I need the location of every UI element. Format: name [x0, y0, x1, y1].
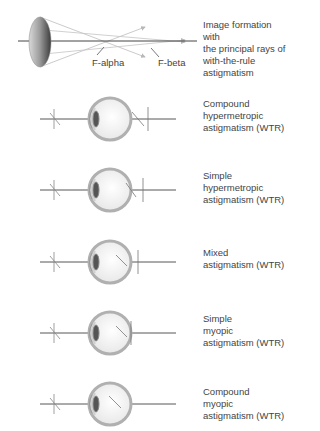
eye-row-simple-hypermetropic [40, 169, 176, 211]
caption-mixed: Mixed astigmatism (WTR) [203, 247, 284, 271]
f-alpha-label: F-alpha [92, 57, 124, 68]
caption-compound-hypermetropic: Compound hypermetropic astigmatism (WTR) [203, 98, 284, 134]
caption-simple-hypermetropic: Simple hypermetropic astigmatism (WTR) [203, 170, 284, 206]
eye-row-compound-hypermetropic [40, 98, 176, 140]
caption-compound-myopic: Compound myopic astigmatism (WTR) [203, 386, 284, 422]
top-caption: Image formation with the principal rays … [203, 19, 287, 79]
lens-icon [29, 17, 51, 67]
caption-simple-myopic: Simple myopic astigmatism (WTR) [203, 313, 284, 349]
eye-row-compound-myopic [40, 383, 176, 425]
eye-row-simple-myopic [40, 312, 176, 354]
eye-row-mixed [40, 241, 176, 283]
f-beta-label: F-beta [158, 57, 185, 68]
